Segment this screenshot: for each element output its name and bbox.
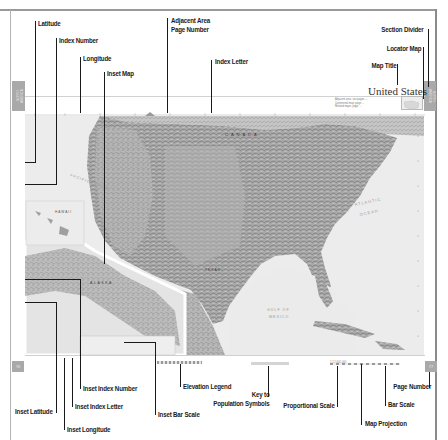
- callout-adjacent-area-page-number: Adjacent Area Page Number: [171, 16, 210, 34]
- proportional-scale-text: 1:12,000,000: [330, 360, 346, 364]
- callout-bar-scale: Bar Scale: [388, 400, 415, 409]
- adjacent-area-note: Adjacent area: see pages ... Continental…: [335, 98, 367, 109]
- svg-text:TEXAS: TEXAS: [205, 268, 221, 272]
- page-left-border: [10, 10, 11, 440]
- callout-longitude: Longitude: [83, 54, 111, 63]
- leader-line-inset-index-letter: [72, 358, 73, 407]
- adjacent-note-line: Adjacent area: see pages ...: [335, 98, 367, 102]
- callout-inset-index-number: Inset Index Number: [83, 384, 137, 393]
- page-right-border: [435, 9, 437, 440]
- callout-inset-map: Inset Map: [107, 69, 134, 78]
- main-map: PACIFIC OCEAN ATLANTIC OCEAN GULF OF MEX…: [25, 116, 424, 355]
- callout-page-number: Page Number: [393, 382, 431, 391]
- bottom-tick-row: [25, 355, 425, 360]
- locator-map: [401, 96, 423, 110]
- leader-line-map-projection: [361, 364, 362, 425]
- leader-line-index-letter: [211, 60, 212, 113]
- svg-text:CANADA: CANADA: [225, 132, 260, 137]
- leader-line-proportional-scale: [337, 366, 338, 407]
- leader-line-map-title: [397, 64, 398, 85]
- svg-text:GULF OF: GULF OF: [267, 308, 290, 312]
- callout-adjacent-area-line2: Page Number: [171, 25, 210, 34]
- page-number-left: 76: [12, 361, 24, 372]
- page-number-right: 77: [425, 361, 437, 372]
- population-symbols-key: [251, 362, 289, 365]
- callout-adjacent-area-line1: Adjacent Area: [171, 16, 210, 25]
- header-rule: [25, 96, 425, 97]
- leader-line-elevation-legend: [180, 364, 181, 387]
- callout-inset-latitude: Inset Latitude: [15, 407, 53, 416]
- callout-locator-map: Locator Map: [386, 44, 421, 53]
- callout-latitude: Latitude: [38, 19, 61, 28]
- leader-line-index-number-h: [25, 184, 57, 185]
- callout-index-letter: Index Letter: [215, 57, 248, 66]
- leader-line-inset-longitude: [64, 358, 65, 430]
- leader-line-latitude-h: [25, 162, 36, 163]
- callout-map-title: Map Title: [372, 61, 397, 70]
- leader-line-longitude: [80, 57, 81, 113]
- leader-line-adjacent-area: [167, 18, 168, 113]
- us-map-graphic: PACIFIC OCEAN ATLANTIC OCEAN GULF OF MEX…: [25, 116, 424, 355]
- section-divider-tab-left: NORTH AMERICA: [12, 81, 25, 111]
- callout-map-projection: Map Projection: [365, 419, 407, 428]
- svg-text:MEXICO: MEXICO: [269, 315, 289, 319]
- callout-inset-index-letter: Inset Index Letter: [75, 402, 123, 411]
- leader-line-section-divider: [428, 29, 429, 87]
- leader-line-inset-index-number: [80, 279, 81, 389]
- callout-section-divider: Section Divider: [382, 25, 424, 34]
- callout-proportional-scale: Proportional Scale: [284, 401, 335, 410]
- leader-line-inset-latitude: [56, 302, 57, 413]
- leader-line-key-to-population: [268, 366, 269, 397]
- callout-key-to-population-symbols: Key to Population Symbols: [213, 390, 269, 408]
- callout-key-line1: Key to: [213, 390, 269, 399]
- leader-line-inset-bar-scale: [155, 342, 156, 415]
- svg-text:ALASKA: ALASKA: [90, 281, 113, 285]
- leader-line-locator-map: [423, 47, 424, 99]
- callout-index-number: Index Number: [59, 36, 98, 45]
- leader-line-index-number: [56, 38, 57, 184]
- svg-text:HAWAII: HAWAII: [55, 210, 72, 214]
- leader-line-inset-bar-scale-h: [124, 342, 156, 343]
- leader-line-page-number: [429, 372, 430, 388]
- page-top-border: [0, 9, 435, 11]
- callout-inset-longitude: Inset Longitude: [67, 425, 110, 434]
- leader-line-inset-map: [104, 72, 105, 264]
- section-tab-text: NORTH AMERICA: [427, 84, 436, 108]
- callout-key-line2: Population Symbols: [213, 399, 269, 408]
- adjacent-note-line: Related maps: page ...: [335, 105, 367, 109]
- callout-inset-bar-scale: Inset Bar Scale: [158, 410, 200, 419]
- leader-line-latitude: [35, 21, 36, 162]
- leader-line-inset-latitude-h: [25, 302, 57, 303]
- leader-line-bar-scale: [385, 366, 386, 406]
- locator-map-shape: [402, 99, 422, 111]
- leader-line-inset-index-number-h: [25, 279, 81, 280]
- section-tab-text: NORTH AMERICA: [16, 84, 25, 108]
